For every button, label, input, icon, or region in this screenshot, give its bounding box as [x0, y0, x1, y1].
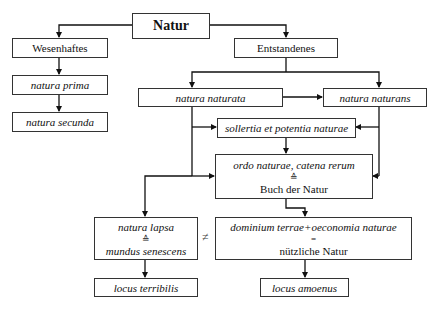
node-natura-lapsa: natura lapsa ≙ mundus senescens [94, 217, 198, 260]
node-natura-prima-label: natura prima [31, 79, 89, 91]
node-natur-label: Natur [153, 20, 189, 32]
node-sollertia: sollertia et potentia naturae [217, 118, 356, 138]
node-ordo-line1: ordo naturae, catena rerum [233, 159, 354, 171]
not-equal-symbol: ≠ [202, 230, 209, 245]
node-locus-amoenus: locus amoenus [260, 278, 349, 297]
node-natura-prima: natura prima [12, 75, 108, 95]
node-dominium-symbol: = [311, 233, 316, 245]
node-natura-naturata-label: natura naturata [176, 92, 246, 104]
node-natur: Natur [132, 13, 210, 39]
node-dominium-terrae: dominium terrae+oeconomia naturae = nütz… [215, 217, 412, 260]
node-entstandenes: Entstandenes [234, 38, 338, 58]
diagram-canvas: Natur Wesenhaftes natura prima natura se… [0, 0, 434, 312]
node-ordo-line2: Buch der Natur [260, 183, 328, 195]
node-lapsa-line2: mundus senescens [106, 245, 186, 257]
node-lapsa-symbol: ≙ [142, 233, 150, 245]
node-dominium-line1: dominium terrae+oeconomia naturae [230, 221, 396, 233]
node-ordo-symbol: ≙ [290, 171, 298, 183]
node-natura-secunda: natura secunda [12, 112, 108, 132]
node-locus-terribilis: locus terribilis [94, 278, 198, 297]
node-locus-terribilis-label: locus terribilis [114, 282, 178, 294]
node-natura-naturans: natura naturans [323, 88, 427, 107]
node-locus-amoenus-label: locus amoenus [272, 282, 337, 294]
node-lapsa-line1: natura lapsa [118, 221, 174, 233]
node-wesenhaftes: Wesenhaftes [12, 38, 108, 58]
node-entstandenes-label: Entstandenes [257, 42, 315, 54]
node-natura-naturata: natura naturata [138, 88, 283, 107]
node-ordo-naturae: ordo naturae, catena rerum ≙ Buch der Na… [215, 154, 373, 199]
node-sollertia-label: sollertia et potentia naturae [225, 122, 348, 134]
node-natura-naturans-label: natura naturans [339, 92, 410, 104]
node-dominium-line2: nützliche Natur [279, 245, 347, 257]
node-natura-secunda-label: natura secunda [26, 116, 94, 128]
node-wesenhaftes-label: Wesenhaftes [32, 42, 87, 54]
